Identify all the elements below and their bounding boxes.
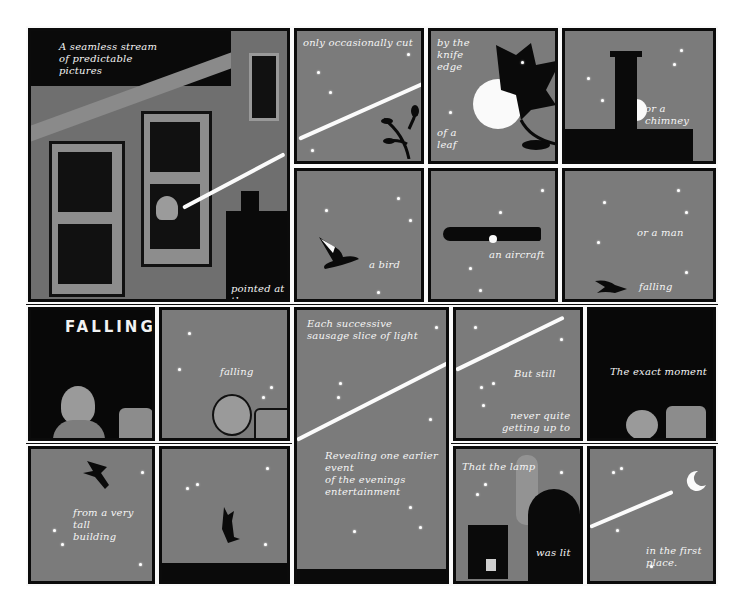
panel-chimney: or a chimney bbox=[562, 28, 716, 164]
caption-top: But still bbox=[514, 368, 556, 380]
caption-top: or a man bbox=[637, 227, 684, 239]
star-icon bbox=[339, 382, 342, 385]
star-icon bbox=[449, 111, 452, 114]
star-icon bbox=[419, 526, 422, 529]
star-icon bbox=[407, 53, 410, 56]
left-window bbox=[49, 141, 125, 297]
panel-man-falling: or a man falling bbox=[562, 168, 716, 302]
star-icon bbox=[329, 91, 332, 94]
caption: an aircraft bbox=[489, 249, 545, 261]
caption-bottom: Revealing one earlier event of the eveni… bbox=[325, 450, 446, 498]
caption-bottom: falling bbox=[639, 281, 673, 293]
light-beam bbox=[455, 316, 565, 372]
caption-bottom: of a leaf bbox=[437, 127, 457, 151]
leaf-silhouette-icon bbox=[476, 35, 558, 164]
caption: a bird bbox=[369, 259, 400, 271]
caption-top: A seamless stream of predictable picture… bbox=[59, 41, 157, 77]
caption-bottom: pointed at the moon bbox=[231, 283, 287, 302]
caption-top: by the knife edge bbox=[437, 37, 470, 73]
falling-man-silhouette-icon bbox=[79, 459, 113, 493]
panel-but-still: But still never quite getting up to bbox=[453, 307, 583, 441]
star-icon bbox=[337, 396, 340, 399]
star-icon bbox=[680, 49, 683, 52]
star-icon bbox=[409, 219, 412, 222]
star-icon bbox=[479, 289, 482, 292]
bird-silhouette-icon bbox=[315, 235, 365, 275]
star-icon bbox=[474, 326, 477, 329]
panel-aircraft: an aircraft bbox=[428, 168, 558, 302]
star-icon bbox=[262, 396, 265, 399]
man-head bbox=[61, 386, 95, 424]
star-icon bbox=[560, 471, 563, 474]
panel-falling-title: FALLING bbox=[28, 307, 155, 441]
star-icon bbox=[53, 529, 56, 532]
moon-icon bbox=[489, 235, 497, 243]
star-icon bbox=[377, 291, 380, 294]
star-icon bbox=[673, 63, 676, 66]
man-body bbox=[53, 420, 105, 441]
star-icon bbox=[603, 201, 606, 204]
armchair bbox=[254, 408, 290, 441]
star-icon bbox=[397, 197, 400, 200]
caption: The exact moment bbox=[610, 366, 707, 378]
falling-man-silhouette-icon bbox=[593, 277, 629, 297]
ground bbox=[162, 563, 287, 581]
star-icon bbox=[317, 71, 320, 74]
caption: from a very tall building bbox=[73, 507, 152, 543]
man-silhouette bbox=[528, 489, 580, 584]
chimney bbox=[241, 191, 259, 221]
panel-first-place: in the first place. bbox=[587, 446, 716, 584]
star-icon bbox=[476, 493, 479, 496]
comic-page: A seamless stream of predictable picture… bbox=[26, 26, 718, 586]
star-icon bbox=[270, 386, 273, 389]
panel-falling-figure bbox=[159, 446, 290, 584]
caption-top: Each successive sausage slice of light bbox=[307, 318, 418, 342]
star-icon bbox=[482, 404, 485, 407]
star-icon bbox=[685, 271, 688, 274]
caption-bottom: was lit bbox=[536, 547, 571, 559]
star-icon bbox=[620, 467, 623, 470]
star-icon bbox=[521, 61, 524, 64]
star-icon bbox=[484, 483, 487, 486]
star-icon bbox=[469, 267, 472, 270]
star-icon bbox=[186, 487, 189, 490]
man-head bbox=[212, 394, 252, 436]
caption: or a chimney bbox=[645, 103, 713, 127]
crescent-moon-icon bbox=[684, 469, 708, 493]
panel-tall-building: from a very tall building bbox=[28, 446, 155, 584]
man-figure bbox=[154, 194, 180, 222]
star-icon bbox=[587, 77, 590, 80]
upper-right-window bbox=[249, 53, 279, 121]
right-window bbox=[141, 111, 212, 267]
light-beam bbox=[589, 490, 673, 529]
star-icon bbox=[560, 338, 563, 341]
star-icon bbox=[492, 382, 495, 385]
chimney-cap bbox=[610, 51, 642, 57]
panel-leaf: by the knife edge of a leaf bbox=[428, 28, 558, 164]
star-icon bbox=[677, 189, 680, 192]
star-icon bbox=[685, 211, 688, 214]
star-icon bbox=[325, 209, 328, 212]
star-icon bbox=[188, 332, 191, 335]
star-icon bbox=[266, 467, 269, 470]
star-icon bbox=[196, 483, 199, 486]
star-icon bbox=[264, 543, 267, 546]
star-icon bbox=[541, 189, 544, 192]
star-icon bbox=[139, 563, 142, 566]
armchair bbox=[119, 408, 153, 441]
armchair bbox=[666, 406, 706, 441]
star-icon bbox=[429, 418, 432, 421]
panel-exact-moment: The exact moment bbox=[587, 307, 716, 441]
star-icon bbox=[353, 530, 356, 533]
panel-sausage-slice: Each successive sausage slice of light R… bbox=[294, 307, 449, 584]
star-icon bbox=[435, 326, 438, 329]
rooftop bbox=[565, 129, 693, 161]
star-icon bbox=[597, 241, 600, 244]
panel-bird: a bird bbox=[294, 168, 424, 302]
caption-top: That the lamp bbox=[462, 461, 535, 473]
caption: falling bbox=[220, 366, 254, 378]
star-icon bbox=[409, 506, 412, 509]
star-icon bbox=[601, 99, 604, 102]
star-icon bbox=[178, 368, 181, 371]
caption: only occasionally cut bbox=[303, 37, 413, 49]
